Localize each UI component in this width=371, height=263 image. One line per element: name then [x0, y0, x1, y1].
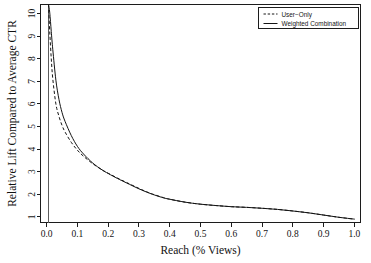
y-tick-label: 10: [28, 9, 38, 19]
y-tick-label: 3: [28, 169, 38, 174]
y-tick-label: 7: [28, 79, 38, 84]
y-tick-label: 6: [28, 101, 38, 106]
legend-item-user-only: User−Only: [282, 11, 313, 19]
relative-lift-vs-reach-chart: 0.00.10.20.30.40.50.60.70.80.91.0 123456…: [0, 0, 371, 263]
chart-figure: 0.00.10.20.30.40.50.60.70.80.91.0 123456…: [0, 0, 371, 263]
x-tick-label: 0.9: [318, 229, 330, 239]
series-line-user-only: [49, 5, 355, 220]
y-axis-ticks: 12345678910: [28, 9, 41, 220]
x-tick-label: 0.6: [225, 229, 237, 239]
y-tick-label: 5: [28, 124, 38, 129]
y-tick-label: 9: [28, 34, 38, 39]
y-tick-label: 4: [28, 146, 38, 151]
x-tick-label: 0.3: [133, 229, 145, 239]
x-axis-ticks: 0.00.10.20.30.40.50.60.70.80.91.0: [41, 223, 361, 239]
legend-item-weighted-combination: Weighted Combination: [282, 20, 347, 28]
y-tick-label: 8: [28, 56, 38, 61]
x-axis-title: Reach (% Views): [160, 244, 240, 257]
series-line-weighted-combination: [49, 5, 355, 220]
x-tick-label: 0.5: [195, 229, 207, 239]
y-axis-title: Relative Lift Compared to Average CTR: [6, 20, 19, 207]
x-tick-label: 0.4: [164, 229, 176, 239]
data-series-group: [49, 5, 355, 220]
x-tick-label: 0.0: [41, 229, 53, 239]
x-tick-label: 0.8: [287, 229, 299, 239]
x-tick-label: 0.1: [71, 229, 83, 239]
legend: User−OnlyWeighted Combination: [259, 8, 359, 29]
plot-border: [41, 5, 361, 223]
x-tick-label: 0.2: [102, 229, 114, 239]
x-tick-label: 0.7: [256, 229, 268, 239]
x-tick-label: 1.0: [348, 229, 360, 239]
plot-frame: [41, 5, 361, 223]
y-tick-label: 1: [28, 214, 38, 219]
y-tick-label: 2: [28, 192, 38, 197]
